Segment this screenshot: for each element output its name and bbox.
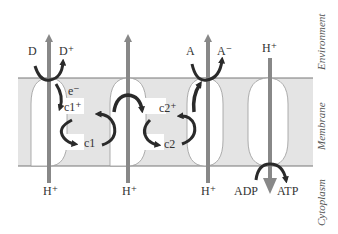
region-membrane: Membrane (315, 102, 327, 151)
label-c1: c1 (84, 136, 95, 150)
region-cytoplasm: Cytoplasm (315, 179, 327, 226)
label-c2: c2 (164, 137, 175, 151)
label-h-plus-1: H⁺ (43, 184, 58, 198)
diagram-canvas: D D⁺ e⁻ c1⁺ c1 c2⁺ c2 A A⁻ H⁺ H⁺ H⁺ H⁺ A… (0, 0, 338, 234)
label-c2-plus: c2⁺ (159, 101, 177, 115)
label-e-minus: e⁻ (68, 84, 80, 98)
label-h-plus-2: H⁺ (122, 184, 137, 198)
label-d: D (28, 44, 37, 58)
label-a: A (186, 44, 195, 58)
label-h-plus-3: H⁺ (201, 184, 216, 198)
label-c1-plus: c1⁺ (64, 100, 82, 114)
label-adp: ADP (234, 184, 258, 198)
label-a-minus: A⁻ (217, 44, 232, 58)
label-h-plus-top: H⁺ (262, 41, 277, 55)
region-environment: Environment (315, 13, 327, 71)
label-atp: ATP (277, 184, 299, 198)
label-d-plus: D⁺ (59, 44, 74, 58)
atp-arrow-head (263, 178, 277, 194)
